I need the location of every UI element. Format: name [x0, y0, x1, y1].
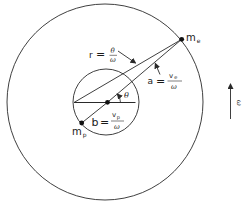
point-m-p	[79, 121, 84, 126]
svg-text:r: r	[89, 50, 93, 60]
label-theta: θ	[124, 91, 129, 100]
svg-text:a: a	[148, 76, 154, 86]
svg-text:b: b	[92, 116, 99, 129]
arrow-to-line-a	[155, 64, 160, 75]
svg-text:ω: ω	[114, 123, 120, 131]
label-m-e: me	[186, 32, 201, 44]
label-r-equation: r = θ ω	[89, 47, 117, 64]
orbital-geometry-diagram: me mp r = θ ω a = ve ω b = vp ω θ ω	[0, 0, 248, 211]
label-a-equation: a = ve ω	[148, 72, 183, 91]
center-point	[105, 100, 110, 105]
svg-text:ω: ω	[110, 56, 116, 64]
theta-angle-arc	[117, 94, 120, 103]
svg-text:=: =	[156, 75, 165, 88]
label-m-p: mp	[72, 126, 87, 139]
line-a	[108, 39, 182, 102]
arrow-to-line-r	[118, 51, 136, 63]
svg-text:vp: vp	[112, 111, 120, 121]
label-b-equation: b = vp ω	[92, 111, 125, 131]
svg-text:θ: θ	[111, 47, 116, 55]
svg-text:ω: ω	[171, 83, 177, 91]
label-omega: ω	[235, 100, 243, 106]
point-m-e	[179, 37, 184, 42]
svg-text:=: =	[96, 48, 105, 61]
svg-text:ve: ve	[169, 72, 177, 80]
svg-text:=: =	[100, 116, 109, 129]
